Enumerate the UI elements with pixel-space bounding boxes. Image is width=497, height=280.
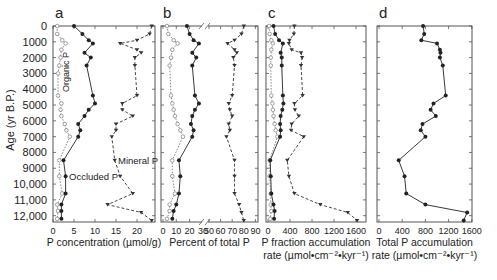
x-tick-label: 70 — [227, 226, 237, 236]
series-total-p — [397, 24, 469, 222]
x-tick-label: 400 — [395, 226, 410, 236]
x-axis-label: Total P accumulation — [376, 236, 473, 248]
panel-d: d040080012001600Total P accumulationrate… — [372, 4, 482, 261]
y-tick-label: 4000 — [23, 83, 47, 95]
y-tick-label: 2000 — [23, 52, 47, 64]
series-mineral-p — [285, 25, 359, 223]
x-tick-label: 0 — [50, 226, 55, 236]
panel-letter: a — [55, 4, 64, 21]
x-axis-label-line2: rate (µmol•cm⁻²•kyr⁻¹) — [263, 249, 368, 261]
x-tick-label: 60 — [216, 226, 226, 236]
x-tick-label: 800 — [304, 226, 319, 236]
x-tick-label: 0 — [265, 226, 270, 236]
y-tick-label: 9000 — [23, 162, 47, 174]
y-tick-label: 0 — [41, 20, 47, 32]
y-tick-label: 1000 — [23, 36, 47, 48]
x-tick-label: 80 — [239, 226, 249, 236]
x-tick-label: 1600 — [346, 226, 366, 236]
x-tick-label: 20 — [185, 226, 195, 236]
x-tick-label: 15 — [111, 226, 121, 236]
x-tick-label: 5 — [71, 226, 76, 236]
x-tick-label: 20 — [132, 226, 142, 236]
x-tick-label: 1200 — [324, 226, 344, 236]
x-axis-label-line2: rate (µmol•cm⁻²•kyr⁻¹) — [372, 249, 477, 261]
x-tick-label: 90 — [250, 226, 260, 236]
x-tick-label: 800 — [418, 226, 433, 236]
panel-letter: d — [379, 4, 387, 21]
y-tick-label: 8000 — [23, 146, 47, 158]
y-tick-label: 5000 — [23, 99, 47, 111]
x-tick-label: 10 — [171, 226, 181, 236]
panel-c: c040080012001600P fraction accumulationr… — [262, 4, 371, 261]
x-tick-label: 400 — [282, 226, 297, 236]
y-tick-label: 10,000 — [13, 178, 47, 190]
x-tick-label: 0 — [160, 226, 165, 236]
x-axis-label: Percent of total P — [169, 236, 250, 248]
y-tick-labels: 010002000300040005000600070008000900010,… — [13, 20, 47, 222]
y-tick-label: 7000 — [23, 131, 47, 143]
panel-letter: c — [268, 4, 276, 21]
series-occluded-p — [170, 24, 201, 221]
x-tick-label: 50 — [204, 226, 214, 236]
panel-b: b01020305060708090Percent of total P — [160, 4, 260, 248]
series-mineral-p — [224, 25, 246, 223]
y-tick-label: 12,000 — [13, 210, 47, 222]
series-organic-p — [267, 24, 279, 220]
y-axis-label: Age (yr B.P.) — [4, 89, 16, 151]
x-tick-label: 10 — [90, 226, 100, 236]
y-tick-label: 6000 — [23, 115, 47, 127]
series-organic-p — [165, 24, 185, 220]
panel-letter: b — [163, 4, 171, 21]
x-tick-label: 0 — [376, 226, 381, 236]
x-axis-label: P fraction accumulation — [262, 236, 371, 248]
y-tick-label: 3000 — [23, 67, 47, 79]
figure: Age (yr B.P.) 01000200030004000500060007… — [0, 0, 497, 280]
series-mineral-p — [105, 25, 153, 223]
y-tick-label: 11,000 — [14, 194, 47, 206]
x-tick-label: 1600 — [462, 226, 482, 236]
annotation-occluded-p: Occluded P — [69, 171, 118, 182]
annotation-organic-p: Organic P — [61, 52, 71, 92]
panels: a05101520P concentration (µmol/g)b010203… — [47, 4, 482, 261]
x-axis-label: P concentration (µmol/g) — [47, 236, 161, 248]
panel-a: a05101520P concentration (µmol/g) — [47, 4, 161, 248]
annotation-mineral-p: Mineral P — [118, 155, 158, 166]
x-tick-label: 1200 — [439, 226, 459, 236]
